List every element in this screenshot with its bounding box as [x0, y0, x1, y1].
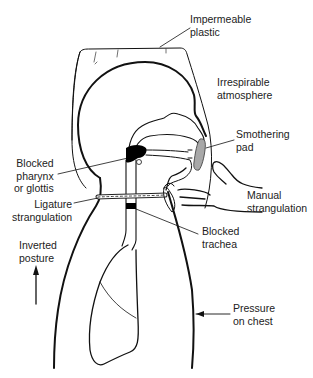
trachea-blockage — [126, 203, 136, 209]
label-inverted-posture: Inverted posture — [19, 239, 57, 264]
plastic-bag-outline — [72, 48, 212, 208]
label-ligature-strangulation: Ligature strangulation — [12, 198, 72, 223]
inverted-arrow-head — [33, 265, 39, 275]
label-blocked-trachea: Blocked trachea — [202, 225, 239, 250]
label-impermeable-plastic: Impermeable plastic — [190, 13, 251, 38]
body-right-outline — [168, 192, 194, 368]
lung-outline — [89, 245, 138, 365]
trachea-left-wall — [122, 160, 126, 246]
label-irrespirable-atmosphere: Irrespirable atmosphere — [217, 76, 272, 101]
smothering-pad — [194, 139, 206, 170]
lung-fissure — [100, 282, 136, 318]
label-pressure-on-chest: Pressure on chest — [233, 302, 275, 327]
plastic-bag-creases — [94, 49, 166, 64]
lip-marks — [188, 150, 192, 158]
label-manual-strangulation: Manual strangulation — [247, 189, 307, 214]
leader-impermeable — [160, 28, 190, 47]
leader-smothering — [206, 140, 234, 148]
glottis-blob — [137, 160, 142, 165]
leader-trachea — [136, 209, 198, 234]
leader-ligature — [74, 198, 98, 203]
pressure-arrow-head — [196, 311, 204, 317]
label-blocked-pharynx: Blocked pharynx or glottis — [14, 157, 54, 195]
tongue-line — [146, 150, 188, 152]
head-outline — [78, 62, 206, 178]
label-smothering-pad: Smothering pad — [236, 128, 290, 153]
